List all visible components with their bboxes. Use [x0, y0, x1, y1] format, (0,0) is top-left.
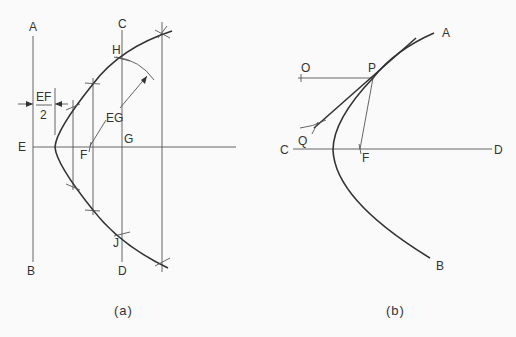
label-f: F — [80, 148, 87, 162]
label-g: G — [124, 132, 133, 146]
label-b: B — [27, 264, 35, 278]
label-eg: EG — [106, 111, 123, 125]
arrowhead-icon — [26, 101, 33, 107]
eg-dim-line-lower — [90, 120, 106, 146]
label-ef-denominator: 2 — [40, 108, 47, 122]
label-p: P — [368, 61, 376, 75]
label-c: C — [280, 143, 289, 157]
parabola-curve-b — [333, 33, 434, 258]
caption-a: (a) — [114, 303, 133, 318]
figure-b: A B C D O P Q F (b) — [280, 26, 503, 318]
caption-b: (b) — [386, 303, 405, 318]
label-ef-numerator: EF — [36, 90, 51, 104]
label-h: H — [112, 43, 121, 57]
label-a: A — [442, 26, 450, 40]
label-a: A — [29, 20, 37, 34]
line-pf — [360, 78, 373, 149]
label-d: D — [118, 264, 127, 278]
arrowhead-icon — [141, 76, 147, 84]
label-d: D — [494, 143, 503, 157]
label-j: J — [113, 236, 119, 250]
label-q: Q — [298, 134, 307, 148]
parabola-construction-diagram: A B C D E F G H J EG EF 2 (a) A B C D — [0, 0, 516, 337]
label-e: E — [18, 140, 26, 154]
label-c: C — [118, 17, 127, 31]
q-tick — [312, 122, 318, 134]
label-b: B — [436, 259, 444, 273]
intersection-ticks — [66, 26, 170, 266]
label-f: F — [362, 151, 369, 165]
figure-a: A B C D E F G H J EG EF 2 (a) — [18, 17, 236, 318]
label-o: O — [301, 61, 310, 75]
arrowhead-icon — [55, 101, 62, 107]
